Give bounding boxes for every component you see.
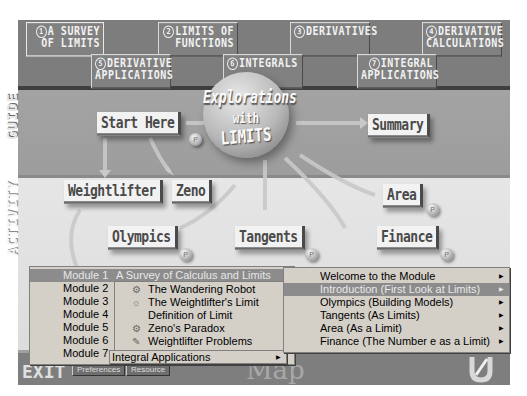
p-bubble-area[interactable]: P xyxy=(426,203,439,216)
submenu-arrow-icon: ▶ xyxy=(499,322,504,335)
menu-item-label: Finance (The Number e as a Limit) xyxy=(320,335,490,348)
submenu-item-weightlifter-problems[interactable]: ✎Weightlifter Problems xyxy=(115,335,283,348)
menu-item-label: Definition of Limit xyxy=(148,309,232,322)
submenu-arrow-icon: ▶ xyxy=(499,283,504,296)
p-bubble-olympics[interactable]: P xyxy=(179,248,192,261)
menu-item-label: Tangents (As Limits) xyxy=(320,309,420,322)
module-7-submenu: Integral Applications ▶ xyxy=(109,350,287,364)
menu-item-label: Module 7 xyxy=(63,347,108,360)
sphere-text: Explorations xyxy=(203,88,289,108)
menu-item-label: Module 4 xyxy=(63,308,108,321)
p-bubble-tangents[interactable]: P xyxy=(305,248,318,261)
menu-item-label: Area (As a Limit) xyxy=(320,322,402,335)
start-here-node[interactable]: Start Here xyxy=(97,112,181,136)
menu-item-label: Zeno's Paradox xyxy=(148,322,225,335)
submenu-item-zenos-paradox[interactable]: ⚙Zeno's Paradox xyxy=(115,322,283,335)
topic-item-area[interactable]: Area (As a Limit)▶ xyxy=(284,322,509,335)
topic-item-olympics[interactable]: Olympics (Building Models)▶ xyxy=(284,296,509,309)
arrow-center-to-finance xyxy=(285,158,345,228)
olympics-node[interactable]: Olympics xyxy=(108,226,178,250)
topic-item-tangents[interactable]: Tangents (As Limits)▶ xyxy=(284,309,509,322)
pencil-pad-icon: ✎ xyxy=(129,336,143,347)
weightlifter-node[interactable]: Weightlifter xyxy=(64,180,163,204)
arrow-center-to-area xyxy=(300,155,375,195)
submenu-item-wandering-robot[interactable]: ⚙The Wandering Robot xyxy=(115,283,283,296)
topic-item-introduction[interactable]: Introduction (First Look at Limits)▶ xyxy=(284,283,509,296)
menu-item-label: Integral Applications xyxy=(112,351,210,364)
submenu-arrow-icon: ▶ xyxy=(276,351,281,364)
finance-node[interactable]: Finance xyxy=(377,226,439,250)
submenu-item-weightlifters-limit[interactable]: ☼The Weightlifter's Limit xyxy=(115,296,283,309)
arrow-start-to-zeno xyxy=(150,138,170,172)
submenu-item-integral-applications[interactable]: Integral Applications ▶ xyxy=(110,351,286,364)
robot-icon: ⚙ xyxy=(129,323,143,334)
weightlifter-icon: ☼ xyxy=(129,297,143,308)
zeno-node[interactable]: Zeno xyxy=(172,180,212,204)
p-bubble-finance[interactable]: P xyxy=(440,248,453,261)
topic-item-welcome[interactable]: Welcome to the Module▶ xyxy=(284,270,509,283)
submenu-arrow-icon: ▶ xyxy=(499,335,504,348)
topic-item-finance[interactable]: Finance (The Number e as a Limit)▶ xyxy=(284,335,509,348)
menu-item-label: Module 3 xyxy=(63,295,108,308)
summary-node[interactable]: Summary xyxy=(368,114,430,138)
module-1-submenu: ⚙The Wandering Robot ☼The Weightlifter's… xyxy=(114,281,284,354)
area-node[interactable]: Area xyxy=(383,184,423,208)
center-sphere-logo[interactable]: Explorations with LIMITS xyxy=(203,72,289,158)
menu-item-label: Introduction (First Look at Limits) xyxy=(320,283,480,296)
topics-menu: Welcome to the Module▶ Introduction (Fir… xyxy=(283,267,510,353)
menu-item-label: Module 1 xyxy=(63,269,108,282)
robot-icon: ⚙ xyxy=(129,284,143,295)
submenu-arrow-icon: ▶ xyxy=(499,296,504,309)
submenu-arrow-icon: ▶ xyxy=(499,309,504,322)
menu-item-label: Weightlifter Problems xyxy=(148,335,252,348)
menu-item-label: The Weightlifter's Limit xyxy=(148,296,259,309)
menu-item-label: Olympics (Building Models) xyxy=(320,296,453,309)
p-bubble-start[interactable]: P xyxy=(189,133,202,146)
menu-item-label: Module 6 xyxy=(63,334,108,347)
menu-item-label: Module 2 xyxy=(63,282,108,295)
menu-item-label: Welcome to the Module xyxy=(320,270,435,283)
menu-item-label: The Wandering Robot xyxy=(148,283,255,296)
submenu-arrow-icon: ▶ xyxy=(499,270,504,283)
menu-item-label: Module 5 xyxy=(63,321,108,334)
tangents-node[interactable]: Tangents xyxy=(235,226,305,250)
u-logo-icon[interactable] xyxy=(466,353,496,383)
submenu-item-definition-of-limit[interactable]: Definition of Limit xyxy=(115,309,283,322)
